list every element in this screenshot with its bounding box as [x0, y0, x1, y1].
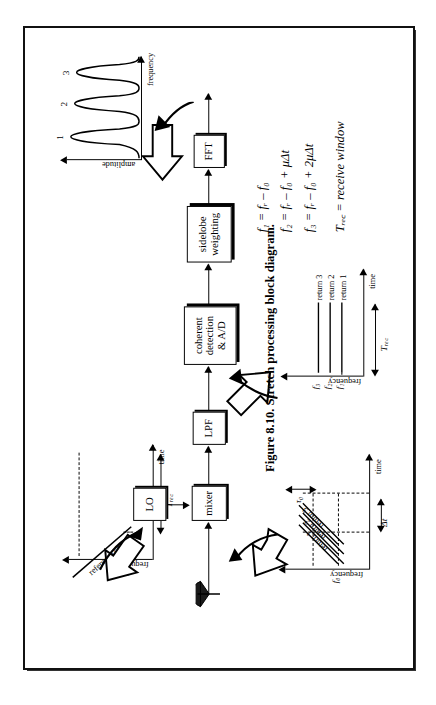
callout-arrow-beat-frequency — [225, 348, 293, 424]
figure-caption: Figure 8.10. Stretch processing block di… — [264, 224, 279, 472]
beat-trace-label-1: return 1 — [338, 275, 348, 301]
arrow-fft-output — [204, 93, 212, 100]
received-tau0-label: τ₀ — [293, 497, 303, 504]
fft-peak-label-2: 2 — [59, 102, 69, 107]
link-lpf-coherent — [208, 367, 209, 414]
antenna-icon — [196, 580, 221, 609]
link-fft-output — [208, 94, 209, 137]
callout-arrow-fft-output — [127, 102, 203, 186]
block-sidelobe-weighting: sidelobe weighting — [187, 206, 232, 263]
arrow-sidelobe-fft — [204, 169, 212, 176]
block-fft-label: FFT — [204, 141, 215, 163]
beat-trace-label-2: return 2 — [326, 275, 336, 301]
link-mixer-lpf — [208, 447, 209, 488]
equation-list: f₁ = fᵣ – f₀ f₂ = fᵣ – f₀ + μΔt f₃ = fᵣ … — [252, 38, 369, 233]
beat-trec-label: Tᵣₑ꜀ — [377, 339, 390, 352]
block-sidelobe-line2: weighting — [209, 211, 220, 258]
arrow-lpf-coherent — [204, 366, 212, 373]
fft-peak-label-1: 1 — [55, 135, 65, 140]
equation-f3: f₃ = fᵣ – f₀ + 2μΔt — [301, 144, 317, 233]
fft-peak-label-3: 3 — [61, 71, 71, 76]
figure-canvas: mixer LO LPF coherent detection & A/D si… — [47, 30, 390, 615]
arrow-antenna-mixer — [204, 522, 212, 529]
link-coherent-sidelobe — [208, 265, 209, 306]
figure-rotated-container: mixer LO LPF coherent detection & A/D si… — [47, 30, 390, 615]
callout-arrow-received — [223, 512, 295, 588]
block-mixer-label: mixer — [204, 489, 215, 518]
block-lpf-label: LPF — [204, 417, 215, 439]
beat-frequency-plot: frequency time f₁ f₂ f₃ return 1 return … — [278, 246, 387, 422]
beat-trace-label-3: return 3 — [315, 275, 325, 301]
block-mixer: mixer — [192, 486, 227, 521]
arrow-mixer-lpf — [204, 446, 212, 453]
callout-arrow-reference-chirp — [94, 512, 158, 592]
equation-trec: Tᵣₑ꜀ = receive window — [330, 122, 348, 233]
arrow-coherent-sidelobe — [204, 264, 212, 271]
block-lpf: LPF — [193, 412, 226, 445]
beat-traces — [278, 246, 387, 422]
arrow-lo-mixer — [183, 502, 190, 510]
page-frame: mixer LO LPF coherent detection & A/D si… — [23, 26, 415, 670]
equation-f2: f₂ = fᵣ – f₀ + μΔt — [278, 150, 294, 232]
